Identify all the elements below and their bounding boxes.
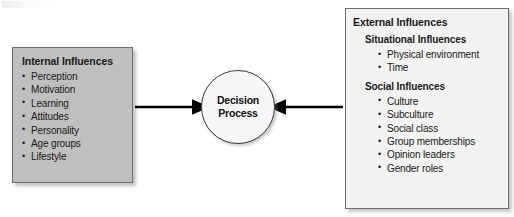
list-item: Social class [378,122,504,135]
decision-process-node: Decision Process [201,70,275,144]
situational-influences-heading: Situational Influences [365,34,504,45]
decision-process-label-line2: Process [218,107,257,120]
list-item: Learning [22,97,128,110]
list-item: Age groups [22,137,128,150]
decision-process-label-line1: Decision [217,94,259,107]
list-item: Motivation [22,83,128,96]
list-item: Gender roles [378,162,504,175]
external-influences-box: External Influences Situational Influenc… [345,8,509,209]
external-influences-content: External Influences Situational Influenc… [353,16,504,175]
social-influences-heading: Social Influences [365,81,504,92]
list-item: Perception [22,70,128,83]
list-item: Group memberships [378,135,504,148]
list-item: Subculture [378,108,504,121]
social-influences-list: Culture Subculture Social class Group me… [378,95,504,175]
situational-influences-list: Physical environment Time [378,48,504,75]
scan-artifact [2,1,54,8]
external-influences-heading: External Influences [353,16,504,28]
internal-influences-heading: Internal Influences [22,55,128,67]
situational-influences-section: Situational Influences Physical environm… [365,34,504,75]
internal-influences-content: Internal Influences Perception Motivatio… [22,55,128,164]
list-item: Physical environment [378,48,504,61]
internal-influences-box: Internal Influences Perception Motivatio… [12,47,133,183]
list-item: Culture [378,95,504,108]
list-item: Lifestyle [22,150,128,163]
list-item: Time [378,61,504,74]
list-item: Attitudes [22,110,128,123]
list-item: Personality [22,124,128,137]
internal-influences-list: Perception Motivation Learning Attitudes… [22,70,128,164]
list-item: Opinion leaders [378,148,504,161]
influences-diagram: Internal Influences Perception Motivatio… [0,0,514,217]
social-influences-section: Social Influences Culture Subculture Soc… [365,81,504,175]
